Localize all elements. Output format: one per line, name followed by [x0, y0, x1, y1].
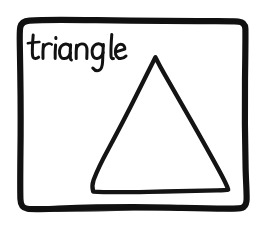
sketch-canvas: triangle [0, 0, 271, 225]
shape-triangle [92, 57, 228, 192]
hand-drawn-sketch: triangle [0, 0, 271, 225]
triangle-apex-retrace [156, 59, 164, 75]
letter-l-stem [111, 34, 113, 58]
letter-t-stem [32, 35, 38, 58]
letter-t-crossbar [28, 42, 40, 43]
letter-r-shoulder [43, 43, 52, 47]
sketch-border-frame [20, 19, 247, 210]
letter-n-arch [76, 44, 87, 59]
border-bottom-retrace [31, 209, 244, 211]
letter-a-stem [70, 45, 71, 60]
letter-e-loop [115, 44, 126, 58]
border-top-retrace [34, 19, 222, 20]
border-outline-path [20, 20, 247, 209]
label-triangle-handwriting: triangle [28, 34, 126, 70]
triangle-outline-path [92, 57, 228, 192]
